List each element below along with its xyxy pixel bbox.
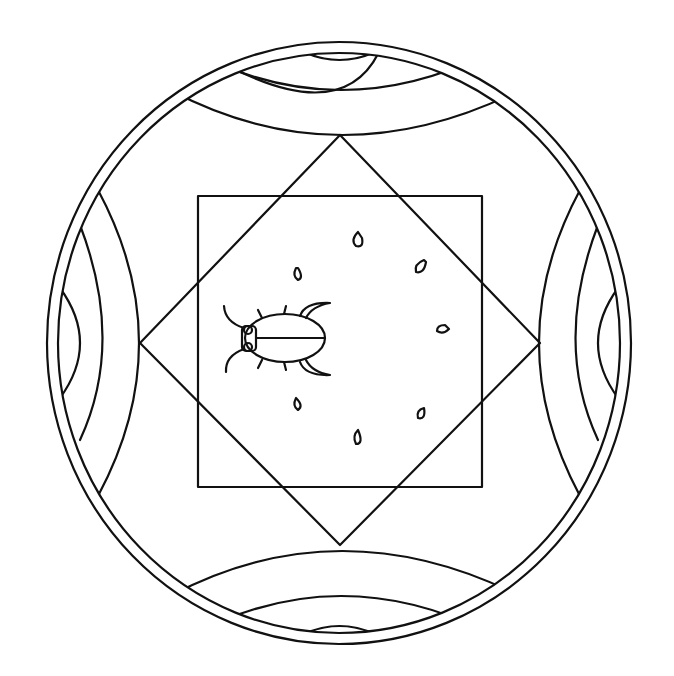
outer-ring [47,42,631,644]
beetle-icon [224,303,330,375]
arc-bands [60,40,618,646]
mandala-drawing [0,0,674,676]
